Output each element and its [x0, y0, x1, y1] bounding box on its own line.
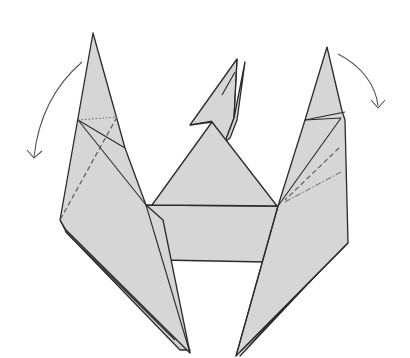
- right-fold-arrow: [338, 54, 385, 108]
- origami-diagram: origami-folding-step Folded paper model …: [0, 0, 410, 358]
- center-triangle: [152, 122, 277, 206]
- origami-svg: [0, 0, 410, 358]
